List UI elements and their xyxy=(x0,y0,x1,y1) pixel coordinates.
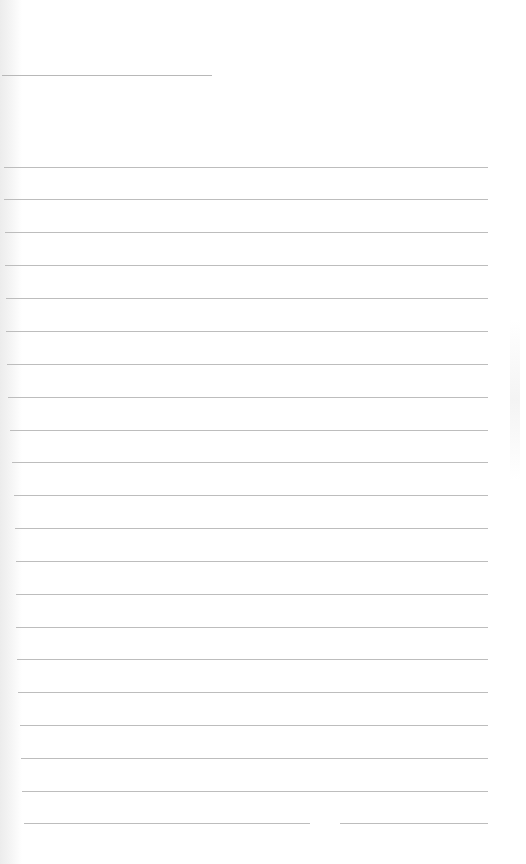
ruled-line xyxy=(6,298,488,299)
ruled-line xyxy=(4,199,488,200)
lined-paper-page xyxy=(0,0,526,864)
ruled-line xyxy=(20,725,488,726)
ruled-line xyxy=(5,265,488,266)
ruled-line xyxy=(6,331,488,332)
title-line xyxy=(2,75,212,76)
ruled-line xyxy=(16,594,488,595)
ruled-line xyxy=(5,232,488,233)
ruled-line xyxy=(18,692,488,693)
ruled-line xyxy=(21,758,488,759)
ruled-line xyxy=(15,528,488,529)
ruled-line xyxy=(8,397,488,398)
ruled-line xyxy=(16,561,488,562)
left-edge-shading xyxy=(0,0,22,864)
ruled-line xyxy=(24,823,488,824)
ruled-line xyxy=(17,659,488,660)
ruled-line xyxy=(22,791,488,792)
ruled-line xyxy=(4,167,488,168)
ruled-line xyxy=(12,462,488,463)
ruled-line-gap xyxy=(310,822,340,825)
ruled-line xyxy=(16,627,488,628)
ruled-line xyxy=(14,495,488,496)
ruled-line xyxy=(10,430,488,431)
right-edge-bleed-marks xyxy=(510,320,520,480)
ruled-line xyxy=(7,364,488,365)
